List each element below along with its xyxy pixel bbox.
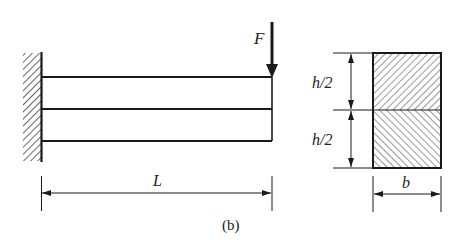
height-dimension: h/2 h/2 [312, 53, 372, 168]
upper-height-label: h/2 [312, 74, 332, 91]
load-arrow: F [253, 22, 278, 78]
length-dimension: L [42, 172, 273, 211]
length-label: L [152, 172, 162, 189]
fixed-support [23, 52, 42, 162]
lower-layer-hatch [373, 110, 441, 168]
upper-layer-hatch [373, 53, 441, 110]
width-dimension: b [373, 174, 441, 212]
cross-section [373, 53, 441, 168]
figure-caption: (b) [222, 217, 240, 234]
force-label: F [253, 29, 265, 48]
cantilever-diagram: F L (b) h/2 h/2 b [0, 0, 455, 243]
arrow-down-icon [266, 64, 278, 78]
width-label: b [402, 174, 410, 191]
wall-hatch [23, 53, 41, 161]
layered-beam [41, 77, 272, 141]
lower-height-label: h/2 [312, 131, 332, 148]
